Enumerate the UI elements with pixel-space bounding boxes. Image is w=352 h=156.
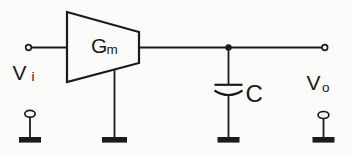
output-ground-terminal-icon: [318, 112, 329, 119]
input-voltage-label-sub: i: [32, 69, 35, 84]
circuit-canvas: G m V i C V o: [0, 0, 352, 156]
input-ground-bar-icon: [19, 137, 41, 143]
amp-ground-bar-icon: [102, 137, 127, 143]
output-voltage-label-sub: o: [322, 80, 330, 95]
amp-label: G: [91, 34, 107, 57]
amp-label-sub: m: [107, 42, 118, 57]
capacitor-ground-bar-icon: [218, 137, 240, 143]
input-ground-terminal-icon: [25, 110, 35, 117]
output-voltage-label: V: [307, 71, 321, 94]
schematic-figure: G m V i C V o: [0, 0, 352, 156]
capacitor-bottom-plate: [215, 91, 243, 96]
output-ground-bar-icon: [313, 137, 335, 143]
output-terminal-icon: [322, 45, 328, 51]
input-terminal-icon: [26, 45, 32, 51]
input-voltage-label: V: [13, 61, 27, 84]
capacitor-label: C: [246, 80, 263, 107]
